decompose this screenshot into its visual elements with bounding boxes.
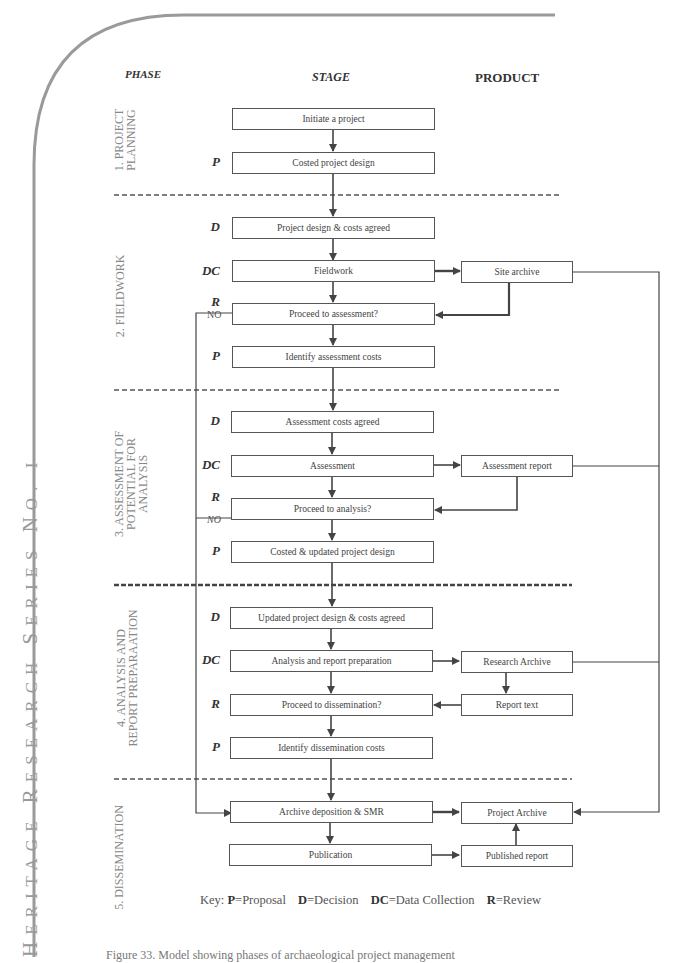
stage-identify-dissemination-costs: Identify dissemination costs [230,737,433,759]
stage-code: D [180,413,220,429]
stage-code: DC [180,457,220,473]
phase-label-4: 4. ANALYSIS AND REPORT PREPARAATION [115,598,139,758]
series-title-cap: S [18,626,42,645]
stage-code: R [180,489,220,505]
legend-meaning: =Data Collection [389,893,475,907]
series-title-cap: N [18,510,42,532]
phase-label-line: 2. FIELDWORK [114,246,126,346]
series-title-text: ERIES [22,532,41,625]
stage-initiate-project: Initiate a project [232,108,435,130]
legend-meaning: =Proposal [235,893,286,907]
stage-code: P [180,154,220,170]
product-site-archive: Site archive [461,261,573,283]
stage-proceed-to-dissemination: Proceed to dissemination? [230,694,433,716]
stage-code: DC [180,652,220,668]
stage-proceed-to-assessment: Proceed to assessment? [232,303,435,325]
stage-code: D [180,219,220,235]
legend-code: D [298,893,307,907]
legend-code: DC [371,893,389,907]
header-stage: STAGE [312,70,350,85]
header-phase: PHASE [125,68,161,80]
stage-code: P [180,739,220,755]
series-title-text: ESEARCH [22,644,41,782]
stage-code: DC [180,263,220,279]
header-product: PRODUCT [475,70,539,86]
phase-label-3: 3. ASSESSMENT OF POTENTIAL FOR ANALYSIS [113,424,149,544]
stage-analysis-report-preparation: Analysis and report preparation [230,650,433,672]
stage-costed-updated-design: Costed & updated project design [231,541,434,563]
legend-prefix: Key: [200,893,224,907]
product-research-archive: Research Archive [461,651,573,673]
legend-meaning: =Review [496,893,541,907]
stage-costed-project-design: Costed project design [232,152,435,174]
series-title-cap: R [18,782,42,803]
phase-label-line: REPORT PREPARAATION [127,598,139,758]
product-report-text: Report text [461,694,573,716]
stage-fieldwork: Fieldwork [232,260,435,282]
product-project-archive: Project Archive [461,802,573,824]
stage-code: P [180,348,220,364]
stage-archive-deposition: Archive deposition & SMR [230,801,433,823]
stage-code: R [180,696,220,712]
phase-label-line: 5. DISSEMINATION [113,785,125,930]
stage-proceed-to-analysis: Proceed to analysis? [231,498,434,520]
branch-no-label: NO [207,514,221,525]
stage-assessment: Assessment [231,455,434,477]
stage-code: D [180,609,220,625]
series-title-text: ERITAGE [22,803,41,935]
phase-label-2: 2. FIELDWORK [114,246,126,346]
figure-caption: Figure 33. Model showing phases of archa… [106,948,455,963]
product-published-report: Published report [461,845,573,867]
phase-label-5: 5. DISSEMINATION [113,785,125,930]
series-title-cap: H [18,935,42,957]
stage-assessment-costs-agreed: Assessment costs agreed [231,411,434,433]
series-title-text: O. I [22,456,41,510]
phase-label-line: ANALYSIS [137,424,149,544]
phase-label-1: 1. PROJECT PLANNING [113,100,137,180]
stage-code: P [180,543,220,559]
branch-no-label: NO [207,309,221,320]
stage-code: R [180,294,220,310]
phase-label-line: PLANNING [125,100,137,180]
stage-updated-design-costs-agreed: Updated project design & costs agreed [230,607,433,629]
legend-code: R [487,893,496,907]
series-title: HERITAGE RESEARCH SERIES NO. I [18,337,43,957]
stage-publication: Publication [229,844,432,866]
product-assessment-report: Assessment report [461,455,573,477]
legend-meaning: =Decision [307,893,358,907]
stage-identify-assessment-costs: Identify assessment costs [232,346,435,368]
legend-key: Key: P=Proposal D=Decision DC=Data Colle… [200,893,541,908]
stage-design-costs-agreed: Project design & costs agreed [232,217,435,239]
legend-code: P [227,893,235,907]
